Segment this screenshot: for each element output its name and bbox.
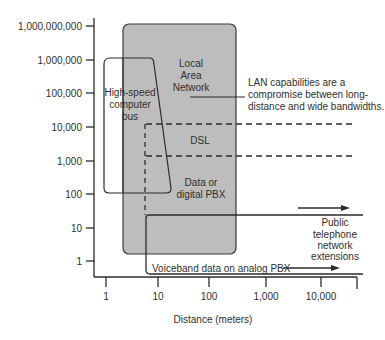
y-tick-label: 1 <box>76 256 82 267</box>
y-tick-label: 10 <box>71 223 83 234</box>
y-tick-label: 100,000 <box>46 88 83 99</box>
x-tick-label: 10 <box>152 291 164 302</box>
x-axis-label: Distance (meters) <box>174 314 253 325</box>
svg-text:extensions: extensions <box>311 251 359 262</box>
svg-text:Data or: Data or <box>185 177 218 188</box>
y-tick-label: 1,000 <box>57 156 82 167</box>
pstn-label: Public telephone network extensions <box>311 217 359 262</box>
svg-text:compromise between long-: compromise between long- <box>248 89 368 100</box>
lan-annotation: LAN capabilities are a compromise betwee… <box>248 77 384 112</box>
svg-text:Area: Area <box>180 70 202 81</box>
y-tick-labels: 1,000,000,000 1,000,000 100,000 10,000 1… <box>18 21 82 267</box>
x-ticks <box>106 277 357 289</box>
svg-text:network: network <box>317 240 353 251</box>
svg-text:Network: Network <box>173 82 211 93</box>
x-tick-label: 1 <box>103 291 109 302</box>
arrow-right-icon <box>341 205 350 211</box>
bandwidth-distance-diagram: 1,000,000,000 1,000,000 100,000 10,000 1… <box>0 0 385 340</box>
svg-text:High-speed: High-speed <box>104 87 155 98</box>
arrow-right-icon <box>331 265 340 271</box>
svg-text:LAN capabilities are a: LAN capabilities are a <box>248 77 346 88</box>
x-tick-label: 100 <box>201 291 218 302</box>
voiceband-label: Voiceband data on analog PBX <box>152 263 291 274</box>
svg-text:Local: Local <box>179 58 203 69</box>
svg-text:Public: Public <box>321 217 348 228</box>
y-tick-label: 1,000,000,000 <box>18 21 82 32</box>
x-tick-label: 1,000 <box>253 291 278 302</box>
svg-text:computer: computer <box>109 99 151 110</box>
y-tick-label: 10,000 <box>51 122 82 133</box>
svg-text:distance and wide bandwidths.: distance and wide bandwidths. <box>248 101 384 112</box>
x-tick-labels: 1 10 100 1,000 10,000 <box>103 291 337 302</box>
y-tick-label: 100 <box>65 189 82 200</box>
svg-text:telephone: telephone <box>313 229 357 240</box>
x-tick-label: 10,000 <box>306 291 337 302</box>
svg-text:bus: bus <box>122 111 138 122</box>
y-tick-label: 1,000,000 <box>38 55 83 66</box>
svg-text:digital PBX: digital PBX <box>177 189 226 200</box>
y-ticks <box>86 26 94 261</box>
dsl-label: DSL <box>190 135 210 146</box>
